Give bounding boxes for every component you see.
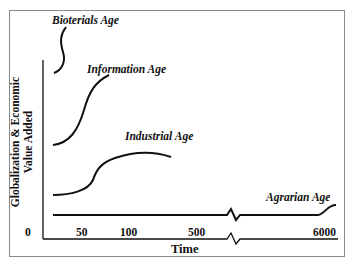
x-tick-50: 50 <box>76 227 88 239</box>
y-axis-label-line2: Value Added <box>22 77 35 207</box>
x-tick-100: 100 <box>120 227 137 239</box>
agrarian-age-label: Agrarian Age <box>266 192 330 204</box>
y-axis-label: Globalization & Economic Value Added <box>9 77 35 207</box>
information-age-curve <box>53 75 109 145</box>
bioterials-age-curve <box>54 27 66 73</box>
x-tick-6000: 6000 <box>313 227 336 239</box>
x-tick-0: 0 <box>25 227 31 239</box>
agrarian-age-curve <box>318 205 336 215</box>
agrarian-age-line <box>53 209 318 220</box>
industrial-age-label: Industrial Age <box>125 131 193 143</box>
industrial-age-curve <box>53 153 171 195</box>
x-axis-label: Time <box>171 243 199 256</box>
bioterials-age-label: Bioterials Age <box>52 15 119 27</box>
y-axis-label-line1: Globalization & Economic <box>9 77 22 207</box>
information-age-label: Information Age <box>87 64 166 76</box>
x-tick-500: 500 <box>188 227 205 239</box>
